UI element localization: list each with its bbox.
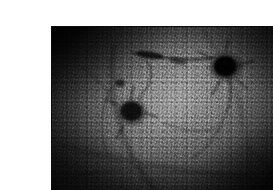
feature-streak-upper-diagonal — [136, 49, 188, 66]
vignette-layer — [52, 27, 273, 190]
coarse-grain-layer — [52, 27, 273, 190]
paving-texture-layer — [52, 27, 273, 190]
feature-satellite-fleck — [115, 79, 125, 87]
feature-lesion-upper-right — [198, 39, 254, 95]
page-canvas — [0, 0, 273, 190]
tone-base-layer — [52, 27, 273, 190]
feature-overlay — [52, 27, 273, 190]
micrograph-figure — [52, 27, 273, 190]
illumination-layer — [52, 27, 273, 190]
feature-lesion-center-left — [104, 85, 158, 139]
fine-grain-layer — [52, 27, 273, 190]
corner-shadow-layer — [52, 27, 273, 190]
